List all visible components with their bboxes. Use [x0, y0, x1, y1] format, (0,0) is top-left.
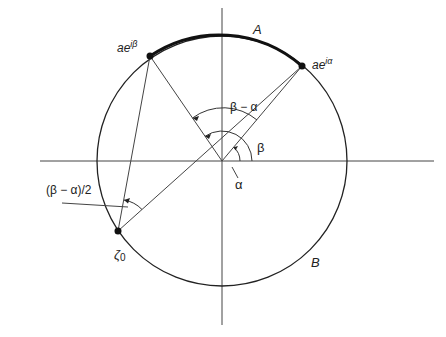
point-alpha	[299, 63, 306, 70]
label-point-alpha: aeiα	[312, 57, 333, 71]
point-zeta0	[115, 228, 122, 235]
label-arc-A: A	[253, 23, 262, 36]
label-half-angle: (β − α)/2	[46, 184, 92, 196]
point-beta	[147, 53, 154, 60]
arc-A	[150, 35, 302, 66]
half-angle-leader	[62, 203, 128, 207]
angle-alpha-arc	[234, 147, 240, 161]
chord-zeta-beta	[118, 56, 150, 231]
radius-to-beta	[150, 56, 222, 161]
label-zeta0: ζ0	[114, 248, 126, 263]
label-beta: β	[257, 141, 264, 154]
label-point-beta: aeiβ	[117, 40, 138, 54]
chord-zeta-alpha	[118, 66, 302, 231]
label-beta-minus-alpha: β − α	[230, 101, 258, 113]
diagram-canvas	[0, 0, 446, 337]
label-arc-B: B	[311, 256, 320, 269]
label-alpha: α	[235, 178, 243, 191]
